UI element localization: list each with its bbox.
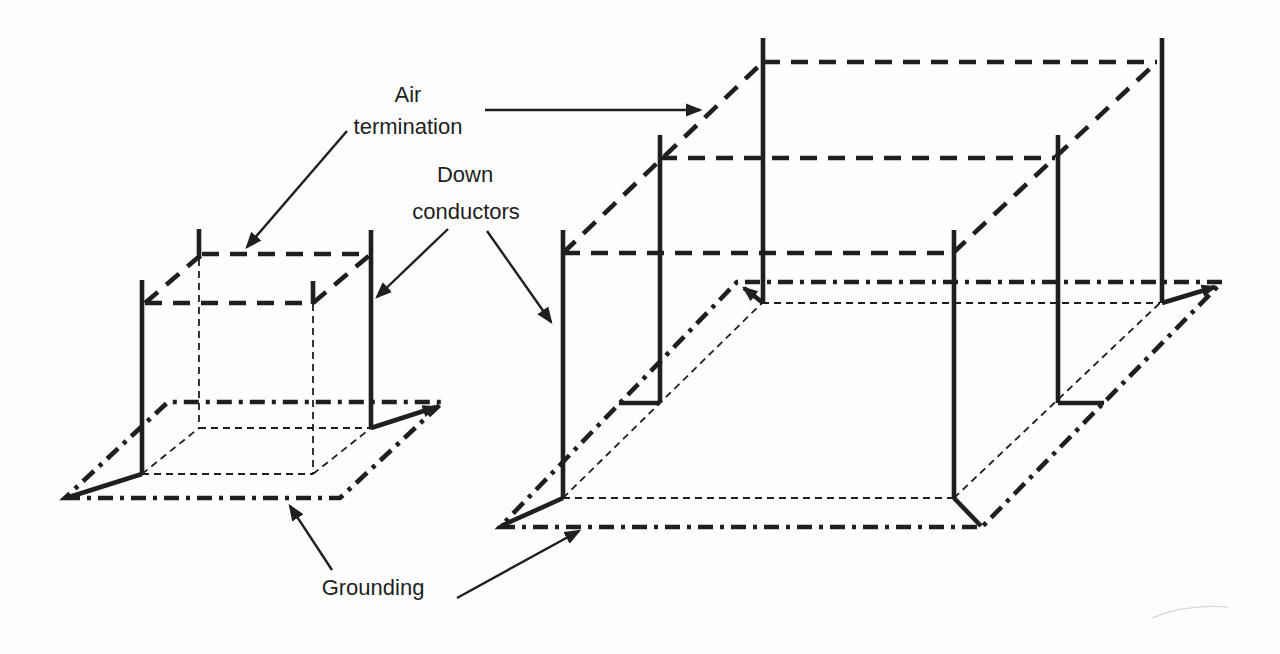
large-hidden-edges	[563, 303, 1160, 498]
roof-edge-right	[313, 254, 371, 303]
lightning-protection-diagram: Air termination Down conductors Groundin…	[0, 0, 1280, 654]
ground-link-front-right	[954, 498, 981, 526]
grounding-label: Grounding	[322, 575, 425, 600]
roof-edge-left	[145, 254, 202, 303]
labels: Air termination Down conductors Groundin…	[322, 82, 520, 600]
scan-smudge	[1152, 606, 1228, 618]
ground-link-front-left	[501, 498, 563, 526]
arrow-grounding-to-small-ring	[290, 506, 332, 570]
small-building	[65, 229, 443, 498]
air-termination-label-line2: termination	[354, 114, 463, 139]
down-conductors-label-line1: Down	[437, 162, 493, 187]
diagram-svg: Air termination Down conductors Groundin…	[0, 0, 1280, 654]
small-hidden-edges	[142, 259, 371, 474]
air-termination-label-line1: Air	[395, 82, 422, 107]
grounding-ring-outline	[65, 402, 443, 498]
hidden-base-left	[142, 428, 199, 474]
arrow-down-conductors-to-small	[377, 229, 448, 297]
arrow-air-termination-to-small-roof	[247, 131, 347, 247]
large-air-termination-roof	[563, 62, 1157, 253]
hidden-base-left	[563, 303, 762, 498]
large-grounding-ring	[500, 282, 1222, 527]
arrow-down-conductors-to-large	[487, 231, 551, 322]
small-air-termination-roof	[145, 254, 371, 303]
large-building	[500, 38, 1222, 527]
grounding-ring-outline	[500, 282, 1222, 527]
ground-link-back-left	[744, 288, 763, 303]
small-grounding-ring	[65, 402, 443, 498]
down-conductors-label-line2: conductors	[412, 199, 520, 224]
arrow-grounding-to-large-ring	[457, 531, 579, 598]
hidden-base-right	[313, 428, 371, 474]
ground-link-back-right	[371, 407, 436, 428]
